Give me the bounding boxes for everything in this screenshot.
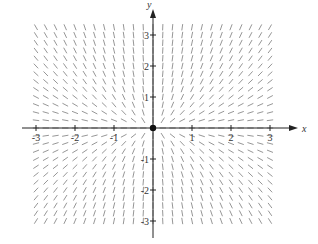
slope-segment bbox=[229, 63, 232, 68]
slope-segment bbox=[248, 157, 253, 160]
slope-segment bbox=[133, 156, 135, 162]
x-axis-arrow-icon bbox=[289, 125, 298, 131]
slope-segment bbox=[230, 210, 233, 216]
slope-segment bbox=[239, 172, 243, 177]
slope-segment bbox=[230, 218, 232, 224]
slope-segment bbox=[267, 173, 272, 177]
slope-segment bbox=[201, 187, 203, 193]
slope-segment bbox=[103, 187, 105, 193]
slope-segment bbox=[74, 203, 77, 209]
slope-segment bbox=[238, 87, 243, 91]
slope-segment bbox=[82, 95, 87, 99]
slope-segment bbox=[180, 110, 184, 115]
slope-segment bbox=[93, 195, 95, 201]
slope-segment bbox=[229, 180, 233, 185]
slope-segment bbox=[161, 133, 164, 138]
x-tick-label: 1 bbox=[190, 132, 195, 143]
slope-segment bbox=[91, 119, 97, 121]
slope-segment bbox=[72, 120, 78, 121]
slope-segment bbox=[239, 48, 242, 54]
slope-segment bbox=[182, 218, 183, 224]
slope-segment bbox=[220, 195, 223, 201]
slope-segment bbox=[238, 157, 243, 161]
slope-segment bbox=[112, 102, 116, 107]
slope-segment bbox=[132, 110, 135, 115]
slope-segment bbox=[210, 40, 212, 46]
equilibrium-point bbox=[150, 125, 156, 131]
slope-segment bbox=[228, 120, 234, 121]
slope-segment bbox=[249, 210, 252, 216]
slope-segment bbox=[33, 80, 38, 84]
slope-segment bbox=[133, 164, 135, 170]
slope-segment bbox=[103, 71, 106, 77]
slope-segment bbox=[73, 63, 76, 68]
slope-segment bbox=[44, 203, 48, 208]
slope-segment bbox=[238, 165, 243, 169]
slope-segment bbox=[33, 150, 39, 152]
slope-segment bbox=[210, 210, 212, 216]
slope-segment bbox=[113, 218, 114, 224]
slope-segment bbox=[62, 120, 68, 121]
slope-segment bbox=[33, 112, 39, 114]
slope-segment bbox=[62, 111, 68, 113]
slope-segment bbox=[220, 24, 222, 30]
slope-segment bbox=[52, 135, 58, 136]
slope-segment bbox=[239, 56, 242, 61]
slope-segment bbox=[62, 135, 68, 136]
slope-segment bbox=[229, 79, 233, 84]
slope-segment bbox=[62, 142, 68, 144]
slope-segment bbox=[84, 24, 86, 30]
slope-segment bbox=[191, 32, 192, 38]
slope-segment bbox=[258, 188, 262, 193]
slope-segment bbox=[228, 111, 234, 113]
slope-segment bbox=[182, 187, 183, 193]
slope-segment bbox=[239, 79, 243, 84]
slope-segment bbox=[123, 63, 124, 69]
slope-segment bbox=[211, 24, 213, 30]
tick-labels: -3-2-1123-3-2-1123xy bbox=[32, 0, 307, 227]
slope-segment bbox=[228, 95, 233, 99]
slope-segment bbox=[219, 87, 223, 92]
slope-segment bbox=[219, 157, 224, 161]
slope-segment bbox=[63, 180, 67, 185]
slope-segment bbox=[258, 195, 262, 200]
slope-segment bbox=[113, 202, 115, 208]
slope-segment bbox=[239, 203, 242, 209]
slope-segment bbox=[44, 40, 47, 45]
slope-segment bbox=[191, 47, 193, 53]
slope-segment bbox=[238, 120, 244, 121]
slope-segment bbox=[257, 103, 263, 106]
slope-segment bbox=[191, 40, 192, 46]
slope-segment bbox=[210, 187, 213, 193]
slope-segment bbox=[268, 48, 272, 53]
slope-segment bbox=[172, 24, 173, 30]
slope-segment bbox=[258, 87, 263, 91]
slope-segment bbox=[73, 195, 76, 201]
slope-segment bbox=[44, 195, 48, 200]
slope-segment bbox=[43, 79, 48, 83]
slope-segment bbox=[190, 94, 193, 99]
slope-segment bbox=[249, 187, 253, 192]
slope-segment bbox=[220, 180, 223, 185]
slope-segment bbox=[73, 164, 78, 169]
slope-segment bbox=[102, 149, 107, 153]
slope-segment bbox=[219, 164, 223, 169]
slope-segment bbox=[63, 95, 68, 99]
slope-segment bbox=[123, 78, 125, 84]
slope-segment bbox=[43, 95, 49, 98]
slope-segment bbox=[34, 32, 37, 37]
slope-segment bbox=[44, 24, 47, 30]
slope-segment bbox=[257, 120, 263, 121]
slope-segment bbox=[162, 86, 163, 92]
slope-segment bbox=[200, 179, 203, 185]
slope-segment bbox=[83, 63, 86, 69]
slope-segment bbox=[43, 172, 48, 176]
slope-segment bbox=[209, 157, 213, 162]
slope-segment bbox=[123, 47, 124, 53]
slope-segment bbox=[103, 87, 106, 92]
slope-segment bbox=[172, 164, 174, 170]
slope-segment bbox=[52, 143, 58, 145]
slope-segment bbox=[113, 71, 115, 77]
slope-segment bbox=[43, 87, 48, 91]
slope-segment bbox=[219, 95, 224, 99]
